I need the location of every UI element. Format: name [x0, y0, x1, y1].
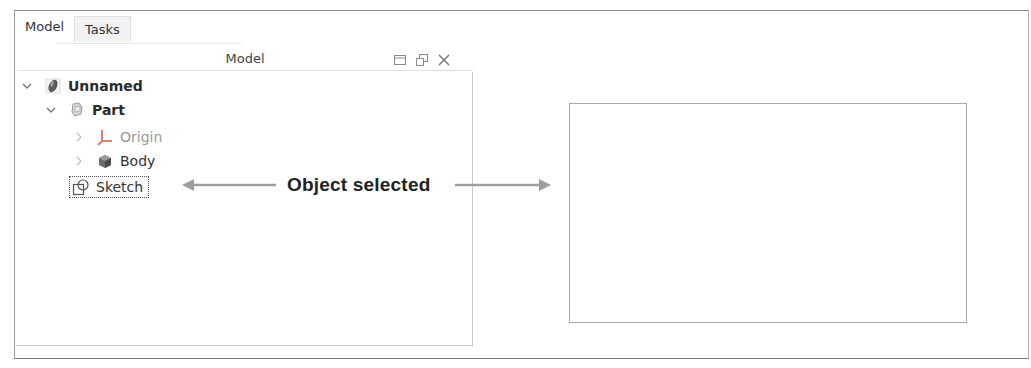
origin-axes-icon [96, 128, 114, 146]
close-icon[interactable] [437, 52, 451, 66]
header-divider [18, 70, 473, 71]
tree-item-unnamed[interactable]: Unnamed [20, 75, 143, 97]
dock-icon[interactable] [393, 52, 407, 66]
selection-highlight[interactable]: Sketch [69, 176, 149, 198]
tab-tasks[interactable]: Tasks [74, 16, 131, 42]
part-icon [68, 101, 86, 119]
tree-item-label: Part [92, 102, 125, 118]
chevron-down-icon[interactable] [44, 103, 58, 117]
float-restore-icon[interactable] [415, 52, 429, 66]
tree-item-label: Unnamed [68, 78, 143, 94]
arrow-right-icon [455, 178, 551, 192]
tree-item-label: Origin [120, 129, 162, 145]
tree-item-body[interactable]: Body [72, 150, 155, 172]
body-icon [96, 152, 114, 170]
tree-item-sketch[interactable]: Sketch [69, 176, 149, 198]
tab-divider [56, 43, 241, 44]
tab-bar: Model Tasks [15, 12, 131, 42]
tree-item-origin[interactable]: Origin [72, 126, 162, 148]
arrow-left-icon [182, 178, 277, 192]
document-icon [44, 77, 62, 95]
chevron-right-icon[interactable] [72, 154, 86, 168]
panel-header: Model [15, 48, 475, 70]
tree-item-label: Sketch [96, 179, 143, 195]
sketch-icon [72, 178, 92, 196]
sketch-rectangle-view[interactable] [569, 103, 967, 323]
tree-item-part[interactable]: Part [44, 99, 125, 121]
tab-model[interactable]: Model [15, 12, 74, 42]
chevron-right-icon[interactable] [72, 130, 86, 144]
chevron-down-icon[interactable] [20, 79, 34, 93]
annotation-label: Object selected [287, 174, 430, 196]
tree-item-label: Body [120, 153, 155, 169]
